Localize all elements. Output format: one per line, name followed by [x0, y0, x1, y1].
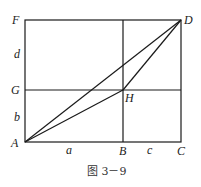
figure-caption: 图 3－9	[87, 165, 127, 178]
diagonal-AD	[25, 20, 181, 142]
point-label-C: C	[177, 144, 186, 158]
point-label-H: H	[124, 91, 135, 105]
point-label-B: B	[119, 144, 127, 158]
segment-label-d: d	[14, 47, 21, 61]
point-label-F: F	[11, 13, 20, 27]
segment-label-a: a	[66, 143, 72, 157]
segment-label-b: b	[14, 110, 20, 124]
point-label-A: A	[10, 136, 19, 150]
segment-AH	[25, 90, 123, 142]
point-label-D: D	[183, 13, 193, 27]
geometry-diagram: F D G H A B C d b a c 图 3－9	[0, 0, 201, 187]
segment-label-c: c	[147, 143, 153, 157]
segment-HD	[123, 20, 181, 90]
point-label-G: G	[11, 83, 20, 97]
